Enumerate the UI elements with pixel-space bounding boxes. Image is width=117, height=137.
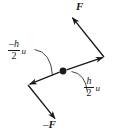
- force-f-label: F: [76, 1, 83, 12]
- force-couple-vector-graphic: [0, 0, 117, 137]
- left-arm-line: [30, 72, 60, 84]
- left-arm-position-label: –h 2 u: [8, 39, 26, 61]
- left-arm-denominator: 2: [11, 51, 18, 62]
- force-negative-f-label-text: F: [49, 118, 56, 130]
- right-arm-position-label: h 2 u: [84, 76, 100, 98]
- right-arm-denominator: 2: [86, 88, 93, 99]
- left-arm-numerator: –h: [8, 39, 20, 50]
- left-arm-unit-vector: u: [22, 47, 27, 56]
- right-arm-line: [67, 57, 104, 69]
- force-negative-f-line: [28, 85, 55, 119]
- left-arm-fraction: –h 2: [8, 39, 20, 61]
- right-arm-unit-vector: u: [96, 84, 101, 93]
- force-f-label-text: F: [76, 0, 83, 12]
- right-arm-numerator: h: [86, 76, 93, 87]
- center-pivot-dot: [60, 68, 67, 75]
- force-negative-f-label: –F: [43, 119, 56, 130]
- left-arm-numerator-text: h: [14, 38, 19, 49]
- left-label-leader-arc: [35, 50, 53, 76]
- force-f-line: [72, 18, 104, 57]
- force-couple-figure: F –F –h 2 u h 2 u: [0, 0, 117, 137]
- right-arm-fraction: h 2: [84, 76, 94, 98]
